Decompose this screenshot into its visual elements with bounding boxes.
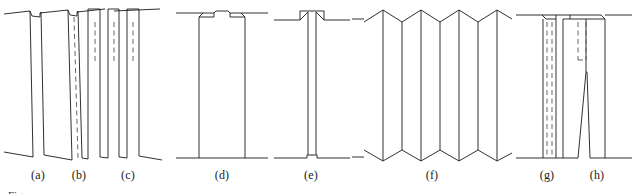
line-drawing-canvas — [0, 0, 636, 194]
lamella-a-right-edge — [41, 12, 44, 155]
panel-group-f — [352, 10, 512, 161]
panel-abc-bottom-surface-3 — [82, 158, 88, 159]
panel-f-top-zigzag — [364, 10, 512, 22]
panel-e-flare-right-diagonal — [316, 12, 324, 20]
panel-label-e: (e) — [304, 168, 318, 183]
panel-abc-bottom-surface-2 — [44, 155, 72, 160]
panel-label-f: (f) — [426, 168, 439, 183]
panel-label-c: (c) — [121, 168, 135, 183]
panel-label-d: (d) — [215, 168, 230, 183]
figure-container: (a) (b) (c) (d) (e) (f) (g) (h) Fig. — [0, 0, 636, 194]
panel-label-h: (h) — [590, 168, 605, 183]
panel-g-notch-head — [542, 15, 556, 19]
panel-h-taper-right — [587, 72, 590, 158]
panel-abc-bottom-surface-5 — [119, 157, 127, 158]
panel-f-bottom-zigzag — [364, 150, 512, 161]
panel-group-abc — [4, 9, 162, 160]
lamella-a-left-edge — [30, 11, 33, 157]
panel-d-center-gap — [214, 11, 230, 13]
lamella-b-left-edge — [68, 10, 72, 160]
panel-abc-top-surface — [4, 11, 30, 14]
panel-d-left-notch — [199, 13, 214, 17]
panel-abc-top-surface-2 — [40, 10, 68, 13]
lamella-b-notch-head — [68, 10, 77, 16]
lamella-b-right-edge — [78, 11, 82, 158]
panel-abc-bottom-surface — [4, 152, 33, 157]
panel-abc-bottom-surface-6 — [139, 156, 162, 160]
panel-h-notch-head — [570, 15, 605, 19]
lamella-b-dashed-core — [74, 17, 78, 158]
figure-caption-stub: Fig. — [8, 190, 25, 194]
panel-group-d — [176, 11, 268, 158]
panel-d-right-notch — [230, 13, 245, 17]
panel-label-g: (g) — [540, 168, 555, 183]
panel-abc-bottom-surface-4 — [100, 157, 108, 158]
panel-label-a: (a) — [31, 168, 45, 183]
panel-label-b: (b) — [72, 168, 87, 183]
panel-group-e — [274, 11, 350, 158]
panel-group-gh — [516, 15, 632, 158]
panel-h-taper-left — [578, 72, 586, 158]
lamella-a-notch-head — [30, 11, 40, 17]
panel-e-flare-left-diagonal — [300, 12, 308, 20]
